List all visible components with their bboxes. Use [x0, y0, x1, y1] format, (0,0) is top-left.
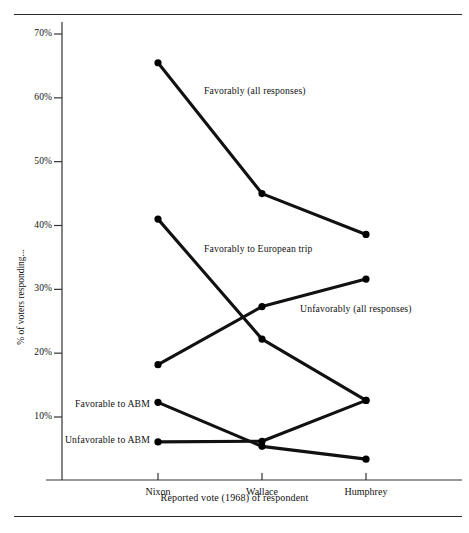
data-point-marker	[258, 438, 265, 445]
series-label-4: Unfavorable to ABM	[0, 434, 150, 445]
data-point-marker	[154, 399, 161, 406]
data-point-marker	[258, 303, 265, 310]
data-point-marker	[362, 397, 369, 404]
data-point-marker	[362, 276, 369, 283]
series-line	[158, 400, 366, 441]
series-line	[158, 279, 366, 365]
y-tick-label: 10%	[10, 411, 52, 421]
series-label-0: Favorably (all responses)	[204, 85, 306, 96]
series-group	[154, 59, 369, 463]
figure-panel: 70%60%50%40%30%20%10% NixonWallaceHumphr…	[0, 0, 469, 533]
series-label-1: Favorably to European trip	[204, 243, 313, 254]
data-point-marker	[154, 361, 161, 368]
x-axis-title: Reported vote (1968) of respondent	[0, 492, 469, 503]
y-tick-label: 50%	[10, 156, 52, 166]
y-axis-title: % of voters responding...	[16, 232, 26, 362]
series-label-2: Unfavorably (all responses)	[300, 303, 412, 314]
data-point-marker	[154, 59, 161, 66]
y-tick-label: 70%	[10, 28, 52, 38]
data-point-marker	[362, 456, 369, 463]
data-point-marker	[362, 231, 369, 238]
series-label-3: Favorable to ABM	[0, 398, 150, 409]
data-point-marker	[154, 216, 161, 223]
line-chart-plot	[0, 0, 469, 533]
y-tick-label: 40%	[10, 220, 52, 230]
series-line	[158, 402, 366, 459]
y-tick-label: 60%	[10, 92, 52, 102]
data-point-marker	[258, 336, 265, 343]
data-point-marker	[258, 190, 265, 197]
data-point-marker	[154, 438, 161, 445]
